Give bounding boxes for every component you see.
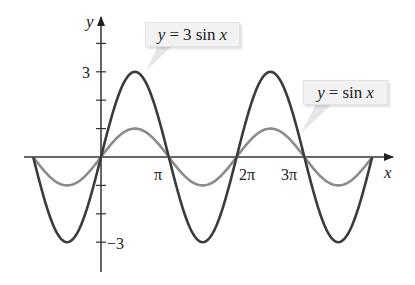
y-axis-label: y xyxy=(84,12,94,31)
callout-sin-rest: sin xyxy=(342,83,362,103)
callout-3sin-x-var: x xyxy=(220,25,228,45)
callout-3sin-rest: 3 sin xyxy=(183,25,216,45)
callout-pointer-sin xyxy=(301,104,332,133)
callout-3sin-eq: = xyxy=(169,25,179,45)
callout-sin-eq: = xyxy=(329,83,339,103)
callout-sin-x-var: x xyxy=(366,83,374,103)
x-tick-label-2pi: 2π xyxy=(239,166,255,183)
callout-3sin-y: y xyxy=(158,25,166,45)
x-tick-label-pi: π xyxy=(154,166,162,183)
x-axis-label: x xyxy=(383,163,392,182)
callout-3sin-x: y=3 sinx xyxy=(145,22,240,47)
callout-sin-x: y=sinx xyxy=(303,80,388,105)
y-tick-label-neg3: −3 xyxy=(107,235,124,252)
callout-sin-y: y xyxy=(317,83,325,103)
x-tick-label-3pi: 3π xyxy=(281,166,297,183)
y-tick-label-3: 3 xyxy=(82,64,90,81)
callout-pointer-3sin xyxy=(146,46,172,71)
